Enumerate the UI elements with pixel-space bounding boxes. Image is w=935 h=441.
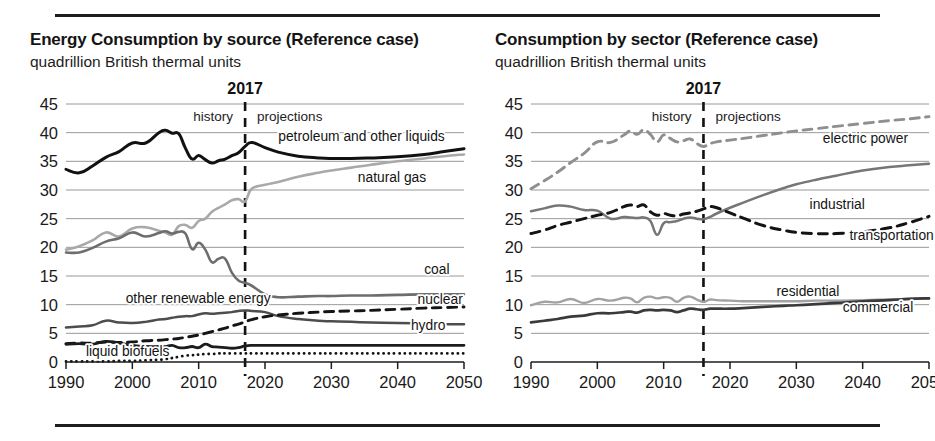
y-axis-tick-label: 25 (505, 210, 523, 228)
y-axis-tick-label: 0 (49, 353, 58, 371)
series-line-0 (531, 117, 929, 189)
series-label-2: coal (424, 262, 449, 277)
divider-year-label: 2017 (686, 80, 722, 97)
y-axis-tick-label: 35 (505, 152, 523, 170)
y-axis-tick-label: 10 (505, 296, 523, 314)
projections-label: projections (715, 109, 781, 124)
panel-energy-by-source: Energy Consumption by source (Reference … (30, 30, 480, 408)
series-label-0: electric power (823, 131, 909, 146)
series-label-5: hydro (411, 318, 446, 333)
bottom-rule (55, 424, 880, 427)
series-label-2: transportation (849, 228, 933, 243)
x-axis-tick-label: 2040 (844, 373, 881, 391)
chart-svg-left: 0510152025303540452017historyprojections… (30, 78, 470, 408)
series-label-4: commercial (843, 300, 914, 315)
history-label: history (193, 109, 233, 124)
x-axis-tick-label: 2050 (911, 373, 935, 391)
x-axis-tick-label: 1990 (48, 373, 85, 391)
x-axis-tick-label: 2010 (645, 373, 682, 391)
y-axis-tick-label: 5 (514, 324, 523, 342)
series-label-3: other renewable energy (126, 291, 271, 306)
x-axis-tick-label: 2010 (180, 373, 217, 391)
x-axis-tick-label: 1990 (513, 373, 550, 391)
panel-consumption-by-sector: Consumption by sector (Reference case) q… (495, 30, 935, 408)
plot-area-left: 0510152025303540452017historyprojections… (30, 78, 480, 408)
y-axis-tick-label: 10 (40, 296, 58, 314)
series-label-1: industrial (810, 197, 865, 212)
panel-title-left: Energy Consumption by source (Reference … (30, 30, 480, 50)
y-axis-tick-label: 20 (505, 238, 523, 256)
series-line-1 (531, 164, 929, 235)
y-axis-tick-label: 0 (514, 353, 523, 371)
y-axis-tick-label: 40 (505, 124, 523, 142)
y-axis-tick-label: 45 (505, 95, 523, 113)
x-axis-tick-label: 2050 (446, 373, 483, 391)
panel-title-right: Consumption by sector (Reference case) (495, 30, 935, 50)
series-label-6: liquid biofuels (86, 344, 170, 359)
chart-svg-right: 0510152025303540452017historyprojections… (495, 78, 935, 408)
panel-subtitle-left: quadrillion British thermal units (30, 52, 480, 71)
y-axis-tick-label: 45 (40, 95, 58, 113)
history-label: history (652, 109, 692, 124)
panel-subtitle-right: quadrillion British thermal units (495, 52, 935, 71)
plot-area-right: 0510152025303540452017historyprojections… (495, 78, 935, 408)
x-axis-tick-label: 2000 (579, 373, 616, 391)
series-line-3 (66, 310, 464, 327)
series-label-3: residential (776, 284, 839, 299)
x-axis-tick-label: 2030 (313, 373, 350, 391)
x-axis-tick-label: 2040 (379, 373, 416, 391)
y-axis-tick-label: 15 (505, 267, 523, 285)
y-axis-tick-label: 15 (40, 267, 58, 285)
x-axis-tick-label: 2000 (114, 373, 151, 391)
series-label-4: nuclear (418, 292, 464, 307)
y-axis-tick-label: 25 (40, 210, 58, 228)
series-line-2 (66, 231, 464, 297)
y-axis-tick-label: 20 (40, 238, 58, 256)
series-label-1: natural gas (358, 170, 426, 185)
top-rule (55, 14, 880, 17)
x-axis-tick-label: 2020 (247, 373, 284, 391)
divider-year-label: 2017 (227, 80, 263, 97)
y-axis-tick-label: 5 (49, 324, 58, 342)
y-axis-tick-label: 40 (40, 124, 58, 142)
series-label-0: petroleum and other liquids (278, 129, 445, 144)
y-axis-tick-label: 30 (40, 181, 58, 199)
y-axis-tick-label: 30 (505, 181, 523, 199)
x-axis-tick-label: 2020 (712, 373, 749, 391)
projections-label: projections (257, 109, 323, 124)
x-axis-tick-label: 2030 (778, 373, 815, 391)
y-axis-tick-label: 35 (40, 152, 58, 170)
